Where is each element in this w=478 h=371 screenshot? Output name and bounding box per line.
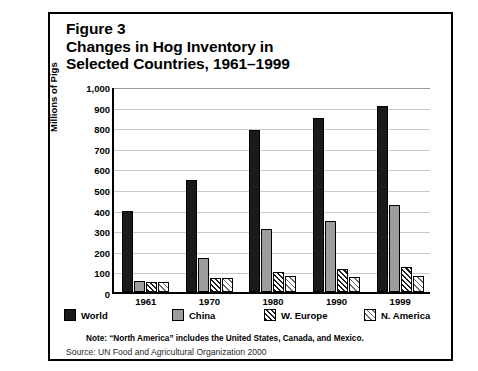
legend-swatch-n-america-icon [364, 309, 376, 321]
bar-group-1999: 1999 [368, 88, 432, 292]
x-axis-tick-label-1990: 1990 [305, 296, 369, 307]
bar-set [368, 88, 432, 292]
bar-world-1970 [186, 180, 197, 292]
y-axis-tick-label: 0 [105, 289, 110, 300]
bar-world-1999 [377, 106, 388, 292]
bar-n-america-1999 [413, 276, 424, 292]
legend-item-w-europe[interactable]: W. Europe [264, 309, 327, 321]
y-axis-tick-label: 200 [94, 247, 110, 258]
y-axis-tick-labels: 01002003004005006007008009001,000 [54, 88, 110, 294]
bar-n-america-1980 [285, 276, 296, 292]
title-line-1: Figure 3 [66, 20, 436, 38]
x-axis-tick-label-1980: 1980 [241, 296, 305, 307]
bar-china-1990 [325, 221, 336, 292]
y-axis-tick-label: 600 [94, 165, 110, 176]
bar-w-europe-1980 [273, 272, 284, 292]
bar-n-america-1961 [158, 282, 169, 292]
legend-swatch-w-europe-icon [264, 309, 276, 321]
y-axis-tick-label: 400 [94, 206, 110, 217]
y-axis-tick-label: 900 [94, 103, 110, 114]
bar-world-1990 [313, 118, 324, 292]
legend-label-w-europe: W. Europe [281, 310, 327, 321]
legend-item-world[interactable]: World [64, 309, 108, 321]
legend-swatch-china-icon [172, 309, 184, 321]
bar-n-america-1970 [222, 278, 233, 292]
bar-set [241, 88, 305, 292]
bar-china-1980 [261, 229, 272, 292]
legend-swatch-world-icon [64, 309, 76, 321]
bar-n-america-1990 [349, 277, 360, 292]
bar-w-europe-1961 [146, 282, 157, 292]
bar-group-1970: 1970 [178, 88, 242, 292]
bar-set [305, 88, 369, 292]
bar-group-1980: 1980 [241, 88, 305, 292]
legend-item-n-america[interactable]: N. America [364, 309, 430, 321]
bar-china-1961 [134, 281, 145, 292]
legend-label-world: World [81, 310, 108, 321]
legend-label-n-america: N. America [381, 310, 430, 321]
legend-item-china[interactable]: China [172, 309, 215, 321]
figure-note: Note: “North America” includes the Unite… [86, 334, 364, 343]
bar-china-1999 [389, 205, 400, 292]
bar-group-1990: 1990 [305, 88, 369, 292]
x-axis-tick-label-1970: 1970 [178, 296, 242, 307]
y-axis-tick-label: 300 [94, 227, 110, 238]
chart-plot-area: 19611970198019901999 0100200300400500600… [112, 88, 430, 294]
chart-legend: WorldChinaW. EuropeN. America [64, 308, 440, 322]
title-line-3: Selected Countries, 1961–1999 [66, 55, 436, 73]
bar-w-europe-1990 [337, 269, 348, 292]
y-axis-tick-label: 700 [94, 144, 110, 155]
y-axis-title: Millions of Pigs [48, 62, 59, 132]
y-axis-tick-label: 500 [94, 186, 110, 197]
bars-layer: 19611970198019901999 [114, 88, 430, 292]
y-axis-tick-label: 100 [94, 268, 110, 279]
bar-group-1961: 1961 [114, 88, 178, 292]
bar-set [178, 88, 242, 292]
figure-title: Figure 3 Changes in Hog Inventory in Sel… [66, 20, 436, 73]
x-axis-tick-label-1999: 1999 [368, 296, 432, 307]
figure-container: Figure 3 Changes in Hog Inventory in Sel… [48, 12, 453, 361]
y-axis-tick-label: 800 [94, 124, 110, 135]
y-axis-tick-label: 1,000 [86, 83, 110, 94]
figure-source: Source: UN Food and Agricultural Organiz… [66, 347, 267, 357]
legend-label-china: China [189, 310, 215, 321]
bar-w-europe-1999 [401, 267, 412, 292]
bar-china-1970 [198, 258, 209, 292]
x-axis-tick-label-1961: 1961 [114, 296, 178, 307]
bar-world-1980 [249, 130, 260, 292]
bar-world-1961 [122, 211, 133, 292]
bar-set [114, 88, 178, 292]
title-line-2: Changes in Hog Inventory in [66, 38, 436, 56]
bar-w-europe-1970 [210, 278, 221, 292]
